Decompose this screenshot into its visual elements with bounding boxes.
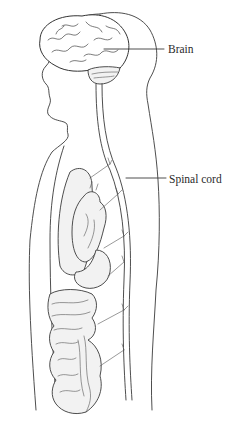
body-illustration: [0, 0, 242, 424]
brain-label: Brain: [168, 44, 194, 56]
brain: [40, 15, 129, 72]
spinal-cord-label: Spinal cord: [169, 174, 222, 186]
nervous-system-diagram: Brain Spinal cord: [0, 0, 242, 424]
cerebellum: [88, 67, 120, 84]
intestines: [48, 290, 101, 414]
